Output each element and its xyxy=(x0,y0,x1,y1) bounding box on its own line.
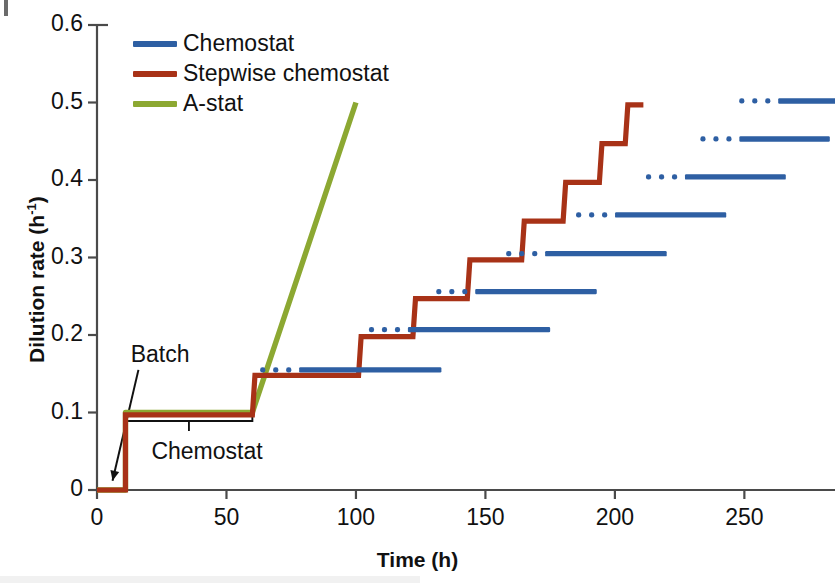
x-tick-label: 250 xyxy=(704,504,784,531)
y-tick-label: 0 xyxy=(70,475,83,502)
legend-item-label: A-stat xyxy=(183,90,243,117)
x-tick-label: 200 xyxy=(575,504,655,531)
legend-item-stepwise-chemostat[interactable]: Stepwise chemostat xyxy=(133,60,389,87)
y-tick-label: 0.4 xyxy=(51,165,83,192)
x-tick-label: 0 xyxy=(57,504,137,531)
legend-item-label: Chemostat xyxy=(183,30,294,57)
series-stepwise-chemostat xyxy=(97,105,643,490)
plot-canvas xyxy=(0,0,835,585)
x-tick-label: 50 xyxy=(186,504,266,531)
legend-color-swatch-icon xyxy=(133,71,177,77)
x-tick-label: 100 xyxy=(316,504,396,531)
x-tick-label: 150 xyxy=(445,504,525,531)
y-tick-label: 0.5 xyxy=(51,88,83,115)
y-tick-label: 0.2 xyxy=(51,320,83,347)
y-tick-label: 0.6 xyxy=(51,10,83,37)
annotation-batch: Batch xyxy=(131,341,190,368)
y-tick-label: 0.1 xyxy=(51,398,83,425)
annotation-chemostat-phase: Chemostat xyxy=(151,438,262,465)
legend-item-a-stat[interactable]: A-stat xyxy=(133,90,243,117)
chart-figure: Dilution rate (h-1) Time (h) 00.10.20.30… xyxy=(0,0,835,585)
y-tick-label: 0.3 xyxy=(51,243,83,270)
legend-color-swatch-icon xyxy=(133,41,177,47)
series-a-stat xyxy=(97,103,356,491)
legend-item-chemostat[interactable]: Chemostat xyxy=(133,30,294,57)
legend-color-swatch-icon xyxy=(133,101,177,107)
legend-item-label: Stepwise chemostat xyxy=(183,60,389,87)
